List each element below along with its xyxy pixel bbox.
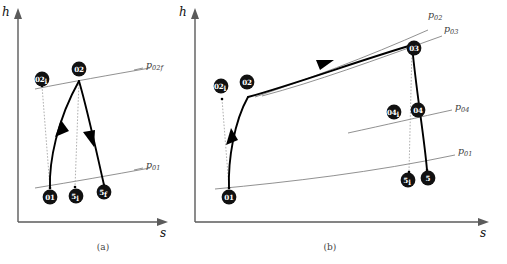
panel-a-caption: (a) — [97, 242, 109, 252]
svg-text:p01: p01 — [458, 145, 472, 158]
panel-b-node-04i-main: 04 — [387, 108, 397, 117]
panel-b: h s — [179, 5, 489, 252]
panel-b-node-03-main: 03 — [409, 44, 419, 53]
panel-b-label-p04-sub: 04 — [461, 106, 469, 114]
svg-text:p02: p02 — [428, 9, 442, 22]
panel-b-caption: (b) — [324, 242, 337, 252]
panel-b-isobar-p01 — [215, 155, 455, 189]
panel-b-node-04: 04 — [411, 103, 426, 118]
panel-b-arrow-02-03 — [316, 60, 334, 70]
panel-a-node-02i: 02i — [35, 72, 50, 87]
panel-b-node-02: 02 — [240, 75, 255, 90]
panel-b-x-axis-label: s — [480, 226, 486, 240]
panel-a-x-axis-label: s — [160, 226, 166, 240]
svg-text:01: 01 — [224, 193, 234, 202]
panel-b-dot-01 — [228, 187, 231, 190]
panel-b-label-p02: p02 — [428, 9, 442, 22]
panel-b-label-p04: p04 — [455, 101, 469, 114]
svg-text:p01: p01 — [146, 159, 160, 172]
panel-a-label-p01-sub: 01 — [152, 164, 160, 172]
svg-text:01: 01 — [45, 193, 55, 202]
panel-a-dashed-02i — [42, 86, 50, 188]
panel-b-node-5: 5 — [421, 171, 436, 186]
panel-b-node-02-main: 02 — [242, 78, 252, 87]
figure-root: h s p02f — [0, 0, 507, 264]
panel-b-y-axis — [191, 8, 199, 222]
svg-text:02: 02 — [74, 65, 84, 74]
panel-a-node-5f: 5f — [97, 185, 112, 200]
panel-b-x-axis — [195, 218, 489, 226]
panel-a-node-02-main: 02 — [74, 65, 84, 74]
panel-b-node-03: 03 — [407, 41, 422, 56]
panel-a-dot-5i — [74, 186, 77, 189]
panel-a-x-axis — [18, 218, 168, 226]
svg-text:p03: p03 — [444, 23, 458, 36]
h-s-diagram-figure: h s p02f — [0, 0, 507, 264]
panel-b-label-p03: p03 — [444, 23, 458, 36]
panel-b-node-02i: 02i — [214, 79, 229, 94]
svg-text:04: 04 — [413, 106, 423, 115]
panel-a-node-01: 01 — [43, 190, 58, 205]
panel-a-label-p02f-sub: 02f — [152, 64, 164, 72]
svg-text:p04: p04 — [455, 101, 469, 114]
svg-text:03: 03 — [409, 44, 419, 53]
panel-b-dot-02i — [221, 98, 224, 101]
panel-b-node-01: 01 — [222, 190, 237, 205]
panel-a-node-02i-main: 02 — [35, 75, 45, 84]
panel-a-arrow-01-02 — [55, 120, 69, 137]
panel-a-process-01-02 — [50, 81, 79, 188]
panel-a-dashed-5i — [75, 81, 79, 187]
panel-b-process-02-03 — [248, 45, 412, 97]
svg-text:02: 02 — [242, 78, 252, 87]
panel-b-label-p01: p01 — [458, 145, 472, 158]
panel-b-label-p03-sub: 03 — [450, 28, 458, 36]
panel-b-y-axis-label: h — [179, 5, 187, 19]
panel-a-node-01-main: 01 — [45, 193, 55, 202]
panel-a-node-5i: 5i — [69, 189, 84, 204]
panel-a-dot-01 — [49, 187, 52, 190]
panel-b-node-04i: 04i — [387, 105, 402, 120]
panel-a-node-02: 02 — [72, 62, 87, 77]
panel-b-label-p01-sub: 01 — [464, 150, 472, 158]
panel-a: h s p02f — [2, 5, 168, 252]
panel-a-arrow-02-5f — [83, 130, 95, 147]
panel-b-node-01-main: 01 — [224, 193, 234, 202]
panel-b-node-02i-main: 02 — [214, 82, 224, 91]
panel-a-isobar-p01 — [35, 168, 150, 188]
svg-text:p02f: p02f — [146, 59, 164, 72]
panel-a-y-axis-label: h — [2, 5, 10, 19]
panel-b-node-5i: 5i — [401, 173, 416, 188]
panel-b-node-04-main: 04 — [413, 106, 423, 115]
panel-b-label-p02-sub: 02 — [434, 14, 442, 22]
svg-text:5: 5 — [426, 174, 431, 183]
panel-a-y-axis — [14, 8, 22, 222]
panel-b-node-5-main: 5 — [426, 174, 431, 183]
panel-a-isobar-p02f — [35, 68, 150, 89]
